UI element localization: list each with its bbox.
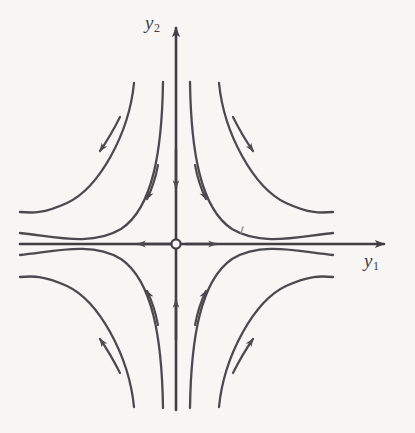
trajectory-q2-outer [20,83,134,213]
trajectory-q4-inner [190,249,333,408]
trajectories-quadrant-3 [20,249,163,408]
y1-axis-label-sub: 1 [372,259,379,273]
trajectories-quadrant-1 [190,82,333,239]
y2-axis-label-sub: 2 [153,21,160,35]
arrow-q2-inner [147,165,158,199]
trajectory-q3-outer [20,276,134,407]
y1-axis-label: y1 [364,250,379,274]
trajectory-q4-outer [219,276,333,407]
trajectory-q1-outer [219,83,333,213]
trajectory-q3-inner [20,249,163,408]
phase-portrait-canvas [0,0,415,433]
arrow-q1-inner [195,165,206,199]
axis-lines [20,28,384,410]
y2-axis-label: y2 [145,12,160,36]
trajectories-quadrant-2 [20,82,163,239]
equilibrium-point-marker [171,239,180,248]
scan-artifact-mark [241,227,243,233]
trajectory-q2-inner [20,82,163,239]
trajectory-q1-inner [190,82,333,239]
trajectories-quadrant-4 [190,249,333,408]
phase-portrait-figure: y2 y1 [0,0,415,433]
